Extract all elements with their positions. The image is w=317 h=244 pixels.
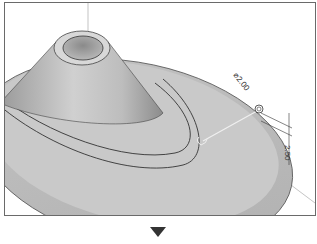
depth-dimension-label: 2.50 [283, 145, 292, 161]
cone-hole [63, 36, 103, 60]
cad-viewport[interactable]: ⌀2.00 2.50 [4, 2, 316, 216]
diameter-dimension-label: ⌀2.00 [231, 71, 251, 93]
cad-model-drawing: ⌀2.00 2.50 [5, 3, 315, 215]
down-triangle-icon [150, 227, 166, 237]
